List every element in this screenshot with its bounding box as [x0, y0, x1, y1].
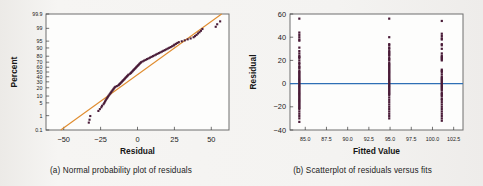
data-point: [388, 103, 390, 105]
data-point: [201, 28, 203, 30]
data-point: [441, 89, 443, 91]
y-tick-label-a: 1: [40, 113, 43, 119]
panel-residuals-versus-fits: −40−20020406085.087.590.092.595.097.5100…: [242, 0, 483, 186]
data-point: [441, 44, 443, 46]
data-point: [388, 44, 390, 46]
data-point: [298, 40, 300, 42]
y-tick-label-a: 99.9: [32, 11, 42, 17]
data-point: [215, 26, 217, 28]
x-axis-title-b: Fitted Value: [353, 146, 400, 156]
data-point: [181, 40, 183, 42]
data-point: [298, 50, 300, 52]
data-point: [388, 108, 390, 110]
data-point: [441, 38, 443, 40]
y-tick-label-a: 20: [37, 85, 43, 91]
data-point: [388, 110, 390, 112]
plot-frame-b: [290, 14, 463, 130]
data-point: [441, 35, 443, 37]
x-tick-label-b: 95.0: [385, 136, 395, 142]
data-point: [388, 101, 390, 103]
y-tick-label-a: 95: [37, 38, 43, 44]
data-point: [441, 117, 443, 119]
data-point: [187, 38, 189, 40]
data-point: [99, 108, 101, 110]
data-point: [298, 110, 300, 112]
y-tick-label-a: 70: [37, 59, 43, 65]
data-point: [190, 37, 192, 39]
x-tick-label-a: 25: [170, 135, 178, 144]
y-tick-label-b: −40: [273, 126, 286, 135]
data-point: [88, 119, 90, 121]
panel-a-caption: (a) Normal probability plot of residuals: [0, 166, 242, 175]
data-point: [441, 73, 443, 75]
data-point: [298, 121, 300, 123]
data-point: [388, 113, 390, 115]
x-tick-label-b: 87.5: [321, 136, 331, 142]
x-tick-label-b: 92.5: [364, 136, 374, 142]
data-point: [298, 34, 300, 36]
panel-b-caption: (b) Scatterplot of residuals versus fits: [242, 166, 483, 175]
data-point: [388, 94, 390, 96]
x-tick-label-b: 90.0: [343, 136, 353, 142]
data-point: [441, 103, 443, 105]
data-point: [388, 18, 390, 20]
data-point: [298, 31, 300, 33]
data-point: [298, 47, 300, 49]
data-point: [97, 110, 99, 112]
y-tick-label-a: 80: [37, 53, 43, 59]
data-point: [441, 20, 443, 22]
data-point: [298, 115, 300, 117]
data-point: [298, 52, 300, 54]
y-tick-label-b: −20: [273, 102, 286, 111]
data-point: [298, 113, 300, 115]
data-point: [178, 41, 180, 43]
y-tick-label-b: 60: [278, 10, 286, 19]
data-point: [216, 23, 218, 25]
data-point: [441, 52, 443, 54]
normal-probability-plot-svg: 0.115102030405060708090959999.9−50−25025…: [0, 0, 242, 166]
data-point: [441, 33, 443, 35]
data-point: [298, 57, 300, 59]
data-point: [298, 63, 300, 65]
x-tick-label-b: 85.0: [300, 136, 310, 142]
x-tick-label-b: 97.5: [406, 136, 416, 142]
data-point: [441, 113, 443, 115]
data-point: [88, 122, 90, 124]
y-tick-label-a: 5: [40, 100, 43, 106]
y-tick-label-b: 0: [282, 79, 286, 88]
data-point: [388, 106, 390, 108]
data-point: [441, 48, 443, 50]
data-point: [441, 99, 443, 101]
y-tick-label-a: 99: [37, 25, 43, 31]
y-tick-label-b: 40: [278, 33, 286, 42]
data-point: [298, 59, 300, 61]
x-axis-title-a: Residual: [120, 146, 155, 156]
data-point: [388, 36, 390, 38]
data-point: [298, 67, 300, 69]
data-point: [441, 115, 443, 117]
data-point: [219, 20, 221, 22]
data-point: [388, 117, 390, 119]
data-point: [441, 120, 443, 122]
data-point: [441, 110, 443, 112]
residuals-versus-fits-svg: −40−20020406085.087.590.092.595.097.5100…: [242, 0, 483, 166]
x-tick-label-a: 50: [207, 135, 215, 144]
data-point: [298, 117, 300, 119]
data-point: [298, 36, 300, 38]
y-tick-label-a: 90: [37, 45, 43, 51]
data-point: [441, 95, 443, 97]
data-point: [388, 55, 390, 57]
y-tick-label-b: 20: [278, 56, 286, 65]
x-tick-label-a: 0: [135, 135, 139, 144]
figure-container: 0.115102030405060708090959999.9−50−25025…: [0, 0, 483, 186]
x-tick-label-a: −25: [94, 135, 107, 144]
y-axis-title-a: Percent: [9, 56, 19, 87]
panel-normal-probability-plot: 0.115102030405060708090959999.9−50−25025…: [0, 0, 242, 186]
data-point: [441, 59, 443, 61]
x-tick-label-a: −50: [57, 135, 70, 144]
data-point: [441, 108, 443, 110]
data-point: [388, 59, 390, 61]
data-point: [441, 71, 443, 73]
y-axis-title-b: Residual: [248, 55, 258, 90]
data-point: [89, 115, 91, 117]
